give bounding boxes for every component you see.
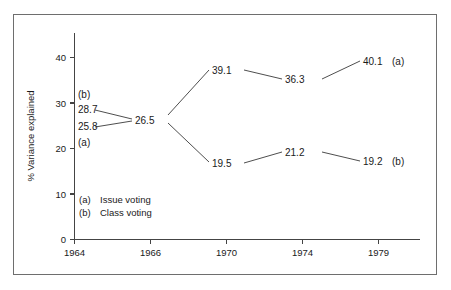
chart-legend: (a) Issue voting (b) Class voting — [79, 194, 152, 218]
segment-b-1970-1974 — [244, 152, 282, 163]
segment-b-1966-1970 — [168, 123, 209, 162]
y-tick-label-30: 30 — [55, 98, 66, 109]
series-b-end-key: (b) — [392, 156, 404, 167]
x-tick-label-1966: 1966 — [140, 247, 161, 258]
segment-a-1974-1979 — [322, 61, 360, 79]
series-a-start-key: (a) — [78, 137, 90, 148]
legend-marker-a: (a) — [79, 194, 91, 205]
legend-label-b: Class voting — [100, 207, 152, 218]
point-label-a-1964: 25.8 — [78, 121, 98, 132]
y-axis-title: % Variance explained — [25, 90, 36, 181]
point-label-b-1970: 19.5 — [212, 158, 232, 169]
x-tick-label-1970: 1970 — [216, 247, 237, 258]
series-b-start-key: (b) — [78, 89, 90, 100]
figure-container: 0 10 20 30 40 1964 1966 1970 1974 1979 %… — [0, 0, 451, 290]
segment-a-1970-1974 — [244, 70, 282, 79]
y-tick-label-0: 0 — [61, 234, 66, 245]
y-tick-label-40: 40 — [55, 52, 66, 63]
x-tick-label-1964: 1964 — [64, 247, 85, 258]
point-label-b-1979: 19.2 — [363, 156, 383, 167]
x-tick-label-1974: 1974 — [292, 247, 313, 258]
point-label-b-1974: 21.2 — [285, 147, 305, 158]
y-tick-label-20: 20 — [55, 143, 66, 154]
y-tick-label-10: 10 — [55, 189, 66, 200]
chart-canvas: 0 10 20 30 40 1964 1966 1970 1974 1979 %… — [0, 0, 451, 290]
point-label-a-1974: 36.3 — [285, 74, 305, 85]
segment-b-1974-1979 — [322, 152, 360, 161]
segment-b-1964-1966 — [95, 110, 132, 119]
segment-a-1966-1970 — [168, 70, 209, 115]
series-a-end-key: (a) — [392, 56, 404, 67]
segment-a-1964-1966 — [95, 121, 132, 127]
legend-marker-b: (b) — [79, 207, 91, 218]
x-tick-label-1979: 1979 — [368, 247, 389, 258]
legend-label-a: Issue voting — [100, 194, 151, 205]
point-label-a-1979: 40.1 — [363, 56, 383, 67]
point-label-a-1970: 39.1 — [212, 65, 232, 76]
point-label-shared-1966: 26.5 — [135, 115, 155, 126]
point-label-b-1964: 28.7 — [78, 104, 98, 115]
